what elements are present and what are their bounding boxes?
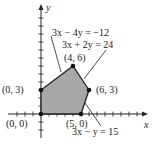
vertex-point [79,112,84,117]
x-axis-arrow-icon [142,112,148,117]
vertex-label: (0, 3) [2,84,24,96]
vertex-label: (6, 3) [96,84,118,96]
feasible-region-diagram: xy(0, 0)(0, 3)(4, 6)(6, 3)(5, 0)3x − 4y … [0,0,154,144]
y-axis-arrow-icon [39,4,44,10]
leader-line [51,36,61,72]
feasible-region [41,66,89,114]
vertex-point [39,112,44,117]
constraint-label: 3x − 4y = −12 [52,27,109,38]
constraint-label: 3x + 2y = 24 [62,39,113,50]
vertex-label: (0, 0) [6,118,28,130]
vertex-label: (4, 6) [64,52,86,64]
vertex-point [71,64,76,69]
x-axis-label: x [143,119,149,130]
vertex-point [39,88,44,93]
y-axis-label: y [45,2,51,13]
vertex-point [87,88,92,93]
leader-line [84,50,106,79]
constraint-label: 3x − y = 15 [72,126,118,137]
